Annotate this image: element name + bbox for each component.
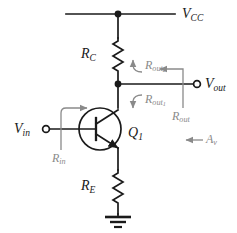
r-out-upper-label: Rout2 (145, 59, 166, 73)
transistor-emitter-lead (96, 134, 118, 148)
emitter-resistor-label: RE (81, 179, 95, 195)
junction-dot-output (115, 81, 122, 88)
ground-symbol (105, 217, 131, 227)
circuit-diagram-canvas: VCC RC Rout2 Vout Rout1 Rout Vin Q1 Av R… (0, 0, 237, 233)
input-terminal-label: Vin (14, 122, 30, 138)
supply-rail-label: VCC (182, 7, 203, 23)
r-out-lower-label: Rout1 (145, 93, 166, 107)
emitter-resistor-body (113, 170, 123, 214)
collector-resistor-body (113, 38, 123, 84)
collector-resistor-label: RC (81, 47, 96, 63)
transistor-label: Q1 (128, 126, 143, 142)
schematic-vector-layer (0, 0, 237, 233)
r-out-upper-arrow (133, 60, 142, 72)
output-terminal-label: Vout (205, 77, 226, 93)
junction-dot-supply (115, 11, 122, 18)
input-terminal-node (43, 126, 50, 133)
r-out-lower-arrow (133, 95, 142, 108)
r-out-total-label: Rout (172, 110, 190, 124)
gain-label: Av (206, 133, 217, 147)
r-in-label: Rin (52, 152, 66, 166)
transistor-collector-lead (96, 110, 118, 124)
output-terminal-node (194, 81, 201, 88)
